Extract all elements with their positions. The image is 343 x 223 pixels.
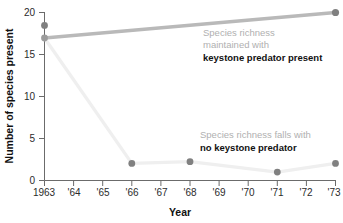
data-point-1971-lower: [274, 169, 281, 176]
y-tick-label-5: 5: [29, 133, 35, 144]
series-line-keystone-predator-present: [45, 13, 336, 39]
x-tick-label-1967: '67: [154, 187, 167, 198]
x-axis-title: Year: [169, 206, 191, 218]
data-point-1968-lower: [187, 158, 194, 165]
data-point-1963-upper: [41, 22, 48, 29]
data-point-1973-upper: [332, 9, 339, 16]
data-point-1966-lower: [128, 160, 135, 167]
y-tick-label-0: 0: [29, 175, 35, 186]
y-tick-label-10: 10: [24, 91, 36, 102]
annotation-bottom-line-2: no keystone predator: [200, 142, 297, 153]
y-tick-label-15: 15: [24, 49, 36, 60]
species-richness-chart: 20 15 10 5 0 1963 '64 '65 '66 '67 '68 '6…: [0, 0, 343, 223]
data-point-1973-lower: [332, 160, 339, 167]
x-tick-label-1968: '68: [183, 187, 196, 198]
annotation-bottom-line-1: Species richness falls with: [200, 129, 311, 140]
x-tick-label-1970: '70: [241, 187, 254, 198]
x-tick-label-1965: '65: [96, 187, 109, 198]
y-axis-title: Number of species present: [3, 28, 15, 163]
x-tick-label-1973: '73: [327, 187, 340, 198]
data-point-1963-origin: [41, 35, 48, 42]
x-tick-label-1963: 1963: [33, 187, 56, 198]
y-tick-label-20: 20: [24, 7, 36, 18]
x-tick-label-1969: '69: [212, 187, 225, 198]
annotation-top-line-1: Species richness: [203, 27, 275, 38]
x-tick-label-1966: '66: [125, 187, 138, 198]
x-tick-label-1964: '64: [67, 187, 80, 198]
annotation-top-line-2: maintained with: [203, 39, 269, 50]
x-tick-label-1971: '71: [270, 187, 283, 198]
chart-canvas: 20 15 10 5 0 1963 '64 '65 '66 '67 '68 '6…: [0, 0, 343, 223]
x-tick-label-1972: '72: [299, 187, 312, 198]
annotation-top-line-3: keystone predator present: [203, 52, 323, 63]
